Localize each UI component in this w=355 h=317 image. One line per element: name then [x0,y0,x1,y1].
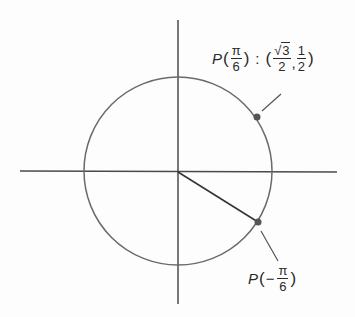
paren-open: ( [259,269,265,289]
comma: , [292,54,296,71]
leader-line-top [262,94,281,111]
paren-close: ) [308,49,314,69]
numerator: π [231,44,242,59]
fraction-1-over-2: 1 2 [297,44,306,73]
fraction-sqrt3-over-2: √3 2 [273,44,290,73]
denominator: 2 [278,59,285,73]
numerator: π [277,264,288,279]
numerator: 1 [297,44,306,59]
point-pi-over-6 [254,114,261,121]
denominator: 2 [298,59,305,73]
label-p-minus-pi-over-6: P ( − π 6 ) [248,264,297,293]
fraction-pi-over-6: π 6 [277,264,288,293]
paren-close: ) [290,269,296,289]
paren-open: ( [223,49,229,69]
separator: : [255,50,259,67]
radicand: 3 [281,42,289,58]
numerator: √3 [273,44,290,59]
paren-close: ) [244,49,250,69]
label-p: P [212,50,222,67]
unit-circle-diagram: P ( π 6 ) : ( √3 2 , 1 2 ) P ( − π 6 ) [0,0,355,317]
denominator: 6 [233,59,240,73]
label-p-pi-over-6: P ( π 6 ) : ( √3 2 , 1 2 ) [212,44,315,73]
minus-sign: − [266,270,275,287]
fraction-pi-over-6: π 6 [231,44,242,73]
denominator: 6 [279,279,286,293]
leader-line-bottom [261,231,278,261]
paren-open: ( [266,49,272,69]
radius-line [178,172,258,222]
label-p: P [248,270,258,287]
point-minus-pi-over-6 [255,219,262,226]
